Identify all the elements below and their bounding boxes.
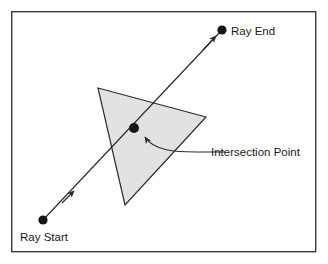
ray-start-point xyxy=(38,215,47,224)
ray-end-point xyxy=(217,25,226,34)
intersection-point-label: Intersection Point xyxy=(211,146,301,158)
ray-triangle-diagram: Ray Start Ray End Intersection Point xyxy=(0,0,328,264)
intersection-point xyxy=(129,123,139,133)
diagram-canvas: Ray Start Ray End Intersection Point xyxy=(0,0,328,264)
ray-start-label: Ray Start xyxy=(20,231,69,243)
ray-end-label: Ray End xyxy=(231,25,275,37)
